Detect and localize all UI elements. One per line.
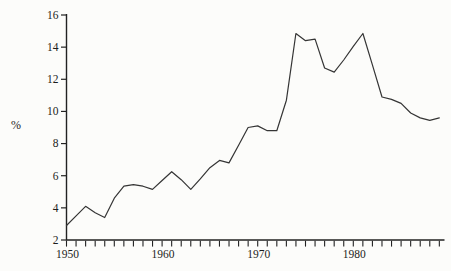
y-tick-label: 16 [47,9,59,21]
axes [67,14,445,240]
x-tick-label: 1970 [247,248,270,260]
y-tick-label: 14 [47,41,59,53]
x-tick-label: 1980 [343,248,366,260]
x-tick-label: 1960 [152,248,175,260]
y-tick-label: 10 [47,105,59,117]
y-tick-label: 2 [53,234,59,246]
line-chart-svg: 2468101214161950196019701980 [0,0,451,271]
scanned-line-chart-figure: % 2468101214161950196019701980 [0,0,451,271]
y-tick-label: 4 [53,202,59,214]
x-tick-label: 1950 [56,248,79,260]
data-line-series [67,34,440,226]
y-tick-label: 12 [47,73,59,85]
y-tick-label: 6 [53,170,59,182]
y-tick-label: 8 [53,137,59,149]
